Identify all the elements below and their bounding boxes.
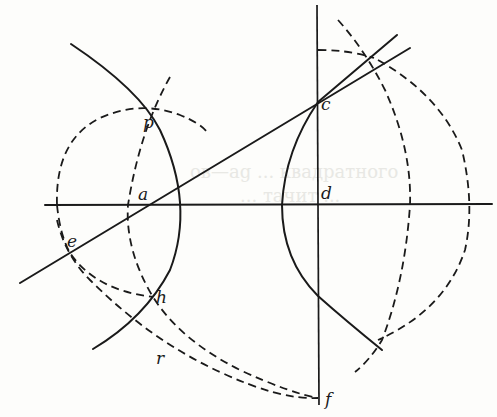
geometric-construction-diagram: ов—ag ... квадратного ... тaчит ... p a … xyxy=(0,0,497,417)
dashed-arc-e-to-f xyxy=(57,220,318,398)
label-point-p: p xyxy=(143,112,154,132)
ghost-text: ов—ag ... квадратного ... тaчит ... xyxy=(190,161,398,206)
label-point-d: d xyxy=(321,183,332,203)
dashed-arc-right-inner xyxy=(338,20,410,372)
label-point-f: f xyxy=(323,389,334,409)
label-point-r: r xyxy=(156,348,165,368)
ghost-text-line-1: ов—ag ... квадратного xyxy=(190,161,398,182)
label-point-c: c xyxy=(321,94,331,114)
label-point-h: h xyxy=(156,287,167,307)
vertical-axis-line xyxy=(317,5,319,405)
label-point-a: a xyxy=(138,184,148,204)
solid-arc-right xyxy=(282,102,382,350)
horizontal-axis-line xyxy=(45,204,492,205)
dashed-arc-upper-left xyxy=(57,108,207,205)
dashed-arc-right-outer xyxy=(378,60,469,340)
label-point-e: e xyxy=(67,231,77,251)
